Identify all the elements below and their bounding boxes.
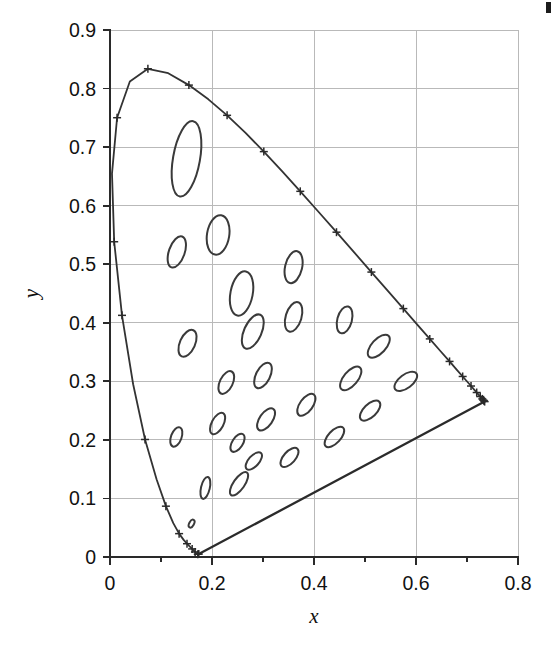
chromaticity-plot-svg: 00.10.20.30.40.50.60.70.80.900.20.40.60.… — [0, 0, 555, 657]
wavelength-plus-marker — [162, 502, 170, 510]
macadam-ellipse — [168, 426, 185, 449]
macadam-ellipse — [167, 119, 207, 199]
macadam-ellipse — [228, 431, 248, 454]
wavelength-plus-marker — [113, 114, 121, 122]
macadam-ellipse — [277, 445, 301, 470]
grid-layer — [110, 30, 518, 557]
y-tick-label: 0.3 — [69, 370, 96, 392]
macadam-ellipse-layer — [164, 119, 420, 529]
y-tick-label: 0.4 — [69, 312, 96, 334]
x-tick-label: 0.2 — [198, 572, 225, 594]
macadam-ellipse — [237, 311, 268, 352]
y-tick-label: 0.5 — [69, 253, 96, 275]
line-of-purples — [199, 402, 485, 554]
y-tick-label: 0.9 — [69, 19, 96, 41]
scan-artifact-mark — [546, 2, 551, 13]
x-tick-label: 0 — [105, 572, 116, 594]
macadam-ellipse — [294, 391, 319, 419]
y-tick-label: 0.6 — [69, 195, 96, 217]
macadam-ellipse — [243, 449, 265, 472]
wavelength-plus-marker — [110, 238, 118, 246]
macadam-ellipse — [356, 397, 383, 424]
macadam-ellipse — [188, 519, 196, 529]
tick-mark-layer — [103, 30, 518, 565]
macadam-ellipse — [250, 360, 275, 391]
tick-label-layer: 00.10.20.30.40.50.60.70.80.900.20.40.60.… — [69, 19, 532, 594]
y-tick-label: 0.7 — [69, 136, 96, 158]
purple-line-path — [199, 402, 485, 554]
macadam-ellipse — [364, 331, 394, 361]
chromaticity-diagram-figure: 00.10.20.30.40.50.60.70.80.900.20.40.60.… — [0, 0, 555, 657]
x-axis-title: x — [308, 604, 319, 628]
y-tick-label: 0 — [85, 546, 96, 568]
macadam-ellipse — [336, 363, 365, 394]
x-tick-label: 0.8 — [504, 572, 531, 594]
macadam-ellipse — [321, 423, 347, 450]
wavelength-plus-marker — [118, 311, 126, 319]
y-tick-label: 0.1 — [69, 487, 96, 509]
macadam-ellipse — [215, 369, 237, 397]
macadam-ellipse — [175, 327, 201, 359]
macadam-ellipse — [226, 269, 256, 317]
wavelength-tick-layer — [110, 65, 488, 558]
y-axis-title: y — [19, 288, 43, 300]
macadam-ellipse — [199, 476, 213, 500]
macadam-ellipse — [227, 469, 252, 498]
macadam-ellipse — [204, 214, 232, 257]
macadam-ellipse — [334, 305, 355, 335]
spectral-locus-path — [112, 69, 485, 554]
x-tick-label: 0.6 — [402, 572, 429, 594]
y-tick-label: 0.8 — [69, 78, 96, 100]
macadam-ellipse — [253, 405, 278, 433]
macadam-ellipse — [207, 410, 228, 436]
x-tick-label: 0.4 — [300, 572, 327, 594]
macadam-ellipse — [282, 249, 306, 285]
spectral-locus-curve — [112, 69, 485, 554]
y-tick-label: 0.2 — [69, 429, 96, 451]
axis-title-layer: xy — [19, 288, 319, 628]
macadam-ellipse — [282, 300, 306, 334]
wavelength-plus-marker — [141, 435, 149, 443]
